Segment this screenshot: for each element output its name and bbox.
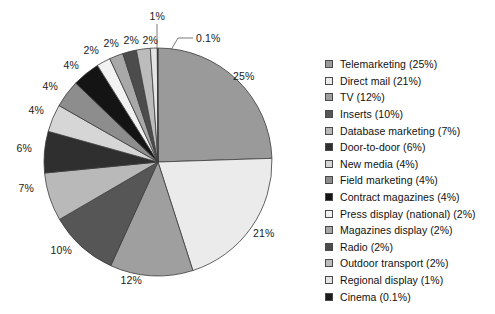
- pie-chart-figure: 25%21%12%10%7%6%4%4%4%2%2%2%2%1%0.1% Tel…: [0, 0, 495, 314]
- legend-item-label: Press display (national) (2%): [340, 208, 476, 220]
- legend-item-label: Database marketing (7%): [340, 125, 460, 137]
- legend-item[interactable]: Magazines display (2%): [325, 222, 493, 239]
- pie-svg: [0, 0, 320, 314]
- legend-item[interactable]: Contract magazines (4%): [325, 189, 493, 206]
- slice-percentage-label: 10%: [51, 244, 72, 256]
- slice-percentage-label: 4%: [43, 80, 58, 92]
- slice-percentage-label: 6%: [17, 142, 32, 154]
- legend-item[interactable]: Radio (2%): [325, 239, 493, 256]
- legend-swatch-icon: [325, 60, 333, 68]
- legend-swatch-icon: [325, 127, 333, 135]
- legend-swatch-icon: [325, 243, 333, 251]
- legend-item-label: Direct mail (21%): [340, 75, 421, 87]
- legend-item[interactable]: Field marketing (4%): [325, 172, 493, 189]
- slice-percentage-label: 21%: [253, 227, 274, 239]
- legend-item-label: Field marketing (4%): [340, 174, 438, 186]
- legend-item[interactable]: New media (4%): [325, 156, 493, 173]
- slice-percentage-label: 7%: [19, 182, 34, 194]
- legend-swatch-icon: [325, 77, 333, 85]
- legend-swatch-icon: [325, 210, 333, 218]
- legend-item[interactable]: Direct mail (21%): [325, 73, 493, 90]
- legend-item-label: Magazines display (2%): [340, 224, 453, 236]
- legend-swatch-icon: [325, 259, 333, 267]
- legend-item[interactable]: Regional display (1%): [325, 272, 493, 289]
- legend-item[interactable]: Outdoor transport (2%): [325, 255, 493, 272]
- slice-percentage-label: 1%: [150, 10, 165, 22]
- legend-swatch-icon: [325, 110, 333, 118]
- legend-swatch-icon: [325, 160, 333, 168]
- legend-item-label: Door-to-door (6%): [340, 141, 425, 153]
- leader-line-01pct-diagonal: [171, 38, 178, 50]
- slice-percentage-label: 2%: [124, 34, 139, 46]
- legend-swatch-icon: [325, 93, 333, 101]
- slice-percentage-label: 2%: [84, 44, 99, 56]
- legend-swatch-icon: [325, 176, 333, 184]
- legend-item-label: Regional display (1%): [340, 274, 443, 286]
- legend-item[interactable]: TV (12%): [325, 89, 493, 106]
- legend-item-label: New media (4%): [340, 158, 418, 170]
- legend-item-label: Cinema (0.1%): [340, 291, 411, 303]
- pie-chart-area: 25%21%12%10%7%6%4%4%4%2%2%2%2%1%0.1%: [0, 0, 320, 314]
- legend-item[interactable]: Door-to-door (6%): [325, 139, 493, 156]
- legend-item[interactable]: Press display (national) (2%): [325, 205, 493, 222]
- slice-percentage-label: 25%: [233, 70, 254, 82]
- slice-percentage-label: 12%: [121, 274, 142, 286]
- legend-item[interactable]: Database marketing (7%): [325, 122, 493, 139]
- legend-item-label: Inserts (10%): [340, 108, 403, 120]
- legend-item-label: Telemarketing (25%): [340, 58, 437, 70]
- legend-item[interactable]: Inserts (10%): [325, 106, 493, 123]
- legend-item-label: Contract magazines (4%): [340, 191, 460, 203]
- legend-item[interactable]: Telemarketing (25%): [325, 56, 493, 73]
- chart-legend: Telemarketing (25%)Direct mail (21%)TV (…: [325, 56, 493, 305]
- slice-percentage-label: 2%: [104, 37, 119, 49]
- legend-item-label: TV (12%): [340, 91, 385, 103]
- pie-slice[interactable]: [158, 48, 272, 162]
- slice-percentage-label: 4%: [29, 104, 44, 116]
- legend-swatch-icon: [325, 193, 333, 201]
- legend-swatch-icon: [325, 276, 333, 284]
- legend-item[interactable]: Cinema (0.1%): [325, 288, 493, 305]
- legend-swatch-icon: [325, 226, 333, 234]
- legend-item-label: Radio (2%): [340, 241, 393, 253]
- legend-swatch-icon: [325, 143, 333, 151]
- legend-swatch-icon: [325, 293, 333, 301]
- slice-percentage-label: 4%: [64, 59, 79, 71]
- legend-item-label: Outdoor transport (2%): [340, 257, 448, 269]
- slice-percentage-label: 0.1%: [196, 32, 220, 44]
- slice-percentage-label: 2%: [143, 34, 158, 46]
